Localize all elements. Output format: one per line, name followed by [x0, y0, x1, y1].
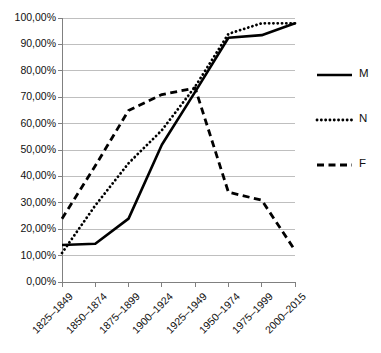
legend-label-m: M: [359, 67, 369, 79]
chart-container: 0,00%10,00%20,00%30,00%40,00%50,00%60,00…: [0, 0, 381, 353]
legend-label-n: N: [359, 112, 367, 124]
legend-swatches: [0, 0, 381, 353]
legend-label-f: F: [359, 157, 366, 169]
